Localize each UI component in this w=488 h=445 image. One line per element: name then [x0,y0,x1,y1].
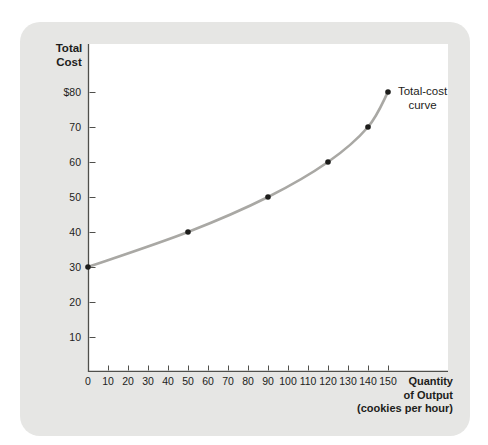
data-point [365,124,371,130]
data-point [325,159,331,165]
y-tick-label: 10 [49,332,81,343]
y-axis-title: Total Cost [48,42,90,69]
curve-annotation: Total-cost curve [392,85,453,112]
y-tick-label: $80 [49,87,81,98]
data-point [265,194,271,200]
data-point [385,89,391,95]
y-tick-label: 20 [49,297,81,308]
curve-annotation-line1: Total-cost [392,85,453,99]
x-axis-title-line2: of Output [331,389,453,403]
data-point [85,264,91,270]
y-tick-label: 30 [49,262,81,273]
x-tick-label: 150 [373,376,403,387]
y-axis-title-line2: Cost [48,56,90,70]
x-axis-title-line3: (cookies per hour) [331,402,453,416]
y-tick-label: 40 [49,227,81,238]
y-axis-title-line1: Total [48,42,90,56]
y-tick-label: 50 [49,192,81,203]
y-tick-label: 60 [49,157,81,168]
data-point [185,229,191,235]
figure-canvas: Total Cost Quantity of Output (cookies p… [0,0,488,445]
y-tick-label: 70 [49,122,81,133]
curve-annotation-line2: curve [392,99,453,113]
